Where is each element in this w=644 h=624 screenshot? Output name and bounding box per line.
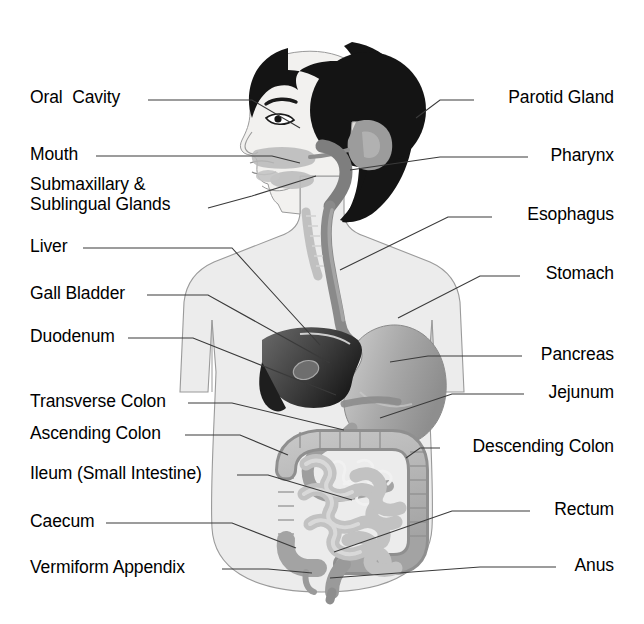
- label-salivary-glands: Submaxillary &Sublingual Glands: [30, 175, 170, 214]
- digestive-system-diagram: Oral CavityMouthSubmaxillary &Sublingual…: [0, 0, 644, 624]
- label-liver: Liver: [30, 237, 67, 257]
- label-vermiform-appendix: Vermiform Appendix: [30, 558, 185, 578]
- label-caecum: Caecum: [30, 512, 95, 532]
- label-anus: Anus: [575, 556, 615, 576]
- label-stomach: Stomach: [546, 264, 614, 284]
- label-transverse-colon: Transverse Colon: [30, 392, 166, 412]
- label-rectum: Rectum: [554, 500, 614, 520]
- label-parotid-gland: Parotid Gland: [508, 88, 614, 108]
- label-pharynx: Pharynx: [551, 146, 615, 166]
- label-pancreas: Pancreas: [541, 345, 614, 365]
- label-descending-colon: Descending Colon: [473, 437, 614, 457]
- label-oral-cavity: Oral Cavity: [30, 88, 120, 108]
- label-ascending-colon: Ascending Colon: [30, 424, 161, 444]
- label-mouth: Mouth: [30, 145, 78, 165]
- label-jejunum: Jejunum: [549, 383, 614, 403]
- label-duodenum: Duodenum: [30, 327, 115, 347]
- label-esophagus: Esophagus: [527, 205, 614, 225]
- label-gall-bladder: Gall Bladder: [30, 284, 125, 304]
- label-ileum: Ileum (Small Intestine): [30, 464, 202, 484]
